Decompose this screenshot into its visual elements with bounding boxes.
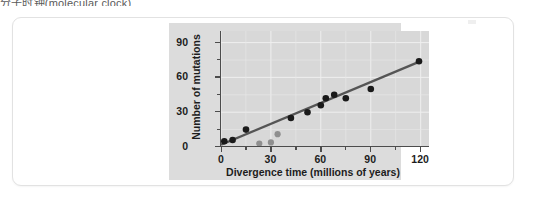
y-tick-30 (215, 111, 220, 112)
y-axis-line (220, 31, 221, 147)
x-tick-label-120: 120 (407, 154, 433, 164)
x-tick-90 (370, 147, 371, 152)
x-tick-60 (320, 147, 321, 152)
x-tick-minor-45 (295, 147, 296, 150)
x-tick-label-0: 0 (208, 154, 234, 164)
y-tick-label-60: 60 (162, 71, 188, 81)
y-tick-label-90: 90 (162, 37, 188, 47)
y-tick-minor-45 (217, 94, 220, 95)
x-axis-line (220, 146, 429, 147)
chart-panel: 0 30 60 90 0 30 60 90 120 Divergence tim… (169, 23, 401, 180)
plot-area (221, 31, 429, 147)
gridlines-minor (221, 31, 429, 147)
y-axis-title: Number of mutations (190, 22, 202, 152)
y-tick-label-0: 0 (162, 141, 188, 151)
x-axis-title: Divergence time (millions of years) (197, 166, 429, 178)
y-tick-label-30: 30 (162, 106, 188, 116)
y-tick-minor-75 (217, 59, 220, 60)
x-tick-0 (221, 147, 222, 152)
plot-svg (221, 31, 429, 147)
y-tick-minor-15 (217, 129, 220, 130)
data-points-outliers (256, 131, 281, 147)
y-tick-90 (215, 42, 220, 43)
x-tick-label-30: 30 (257, 154, 283, 164)
chart-figure: 0 30 60 90 0 30 60 90 120 Divergence tim… (141, 23, 401, 180)
x-tick-minor-75 (345, 147, 346, 150)
y-tick-0 (215, 146, 220, 147)
x-tick-label-60: 60 (307, 154, 333, 164)
x-tick-minor-105 (395, 147, 396, 150)
x-tick-30 (270, 147, 271, 152)
x-tick-label-90: 90 (357, 154, 383, 164)
x-tick-minor-15 (245, 147, 246, 150)
figure-card: 0 30 60 90 0 30 60 90 120 Divergence tim… (12, 17, 514, 186)
page-heading-text: 分子时钟(molecular clock) (0, 0, 131, 6)
y-tick-60 (215, 76, 220, 77)
x-tick-120 (420, 147, 421, 152)
card-corner-artifact (468, 20, 476, 24)
